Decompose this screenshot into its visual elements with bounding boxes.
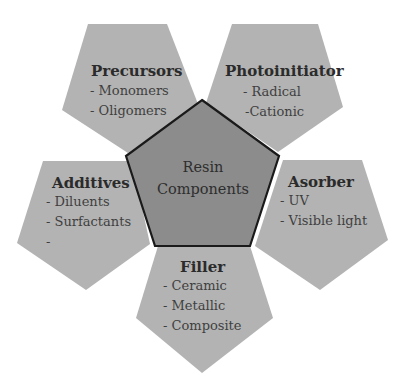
precursors-item: - Monomers	[90, 81, 182, 101]
filler-item: - Metallic	[163, 296, 242, 316]
additives-item: - Surfactants	[46, 212, 131, 232]
photoinitiator-item: -Cationic	[225, 102, 344, 122]
core-label: Resin Components	[148, 156, 258, 200]
asorber-item: - UV	[280, 191, 367, 211]
core-label-line1: Resin	[148, 156, 258, 178]
precursors-title: Precursors	[90, 62, 182, 80]
additives-item: -	[46, 232, 131, 252]
photoinitiator-title: Photoinitiator	[225, 62, 344, 80]
precursors-item: - Oligomers	[90, 101, 182, 121]
filler-label: Filler - Ceramic - Metallic - Composite	[163, 258, 242, 336]
filler-title: Filler	[163, 258, 242, 276]
precursors-label: Precursors - Monomers - Oligomers	[90, 62, 182, 121]
asorber-title: Asorber	[280, 173, 367, 191]
photoinitiator-label: Photoinitiator - Radical -Cationic	[225, 62, 344, 122]
filler-item: - Composite	[163, 316, 242, 336]
additives-title: Additives	[46, 174, 131, 192]
filler-item: - Ceramic	[163, 276, 242, 296]
photoinitiator-item: - Radical	[225, 82, 344, 102]
core-label-line2: Components	[148, 178, 258, 200]
asorber-label: Asorber - UV - Visible light	[280, 173, 367, 231]
asorber-item: - Visible light	[280, 211, 367, 231]
additives-label: Additives - Diluents - Surfactants -	[46, 174, 131, 252]
additives-item: - Diluents	[46, 192, 131, 212]
